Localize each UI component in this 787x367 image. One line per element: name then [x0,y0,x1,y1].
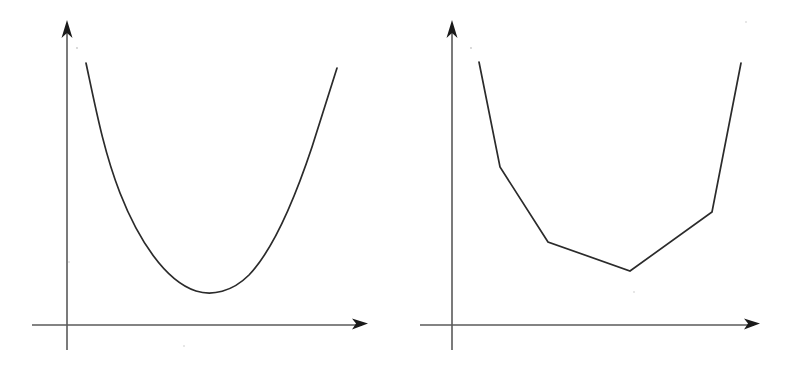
data-curve-piecewise [479,62,741,271]
scan-speck-icon [68,261,70,263]
figure-container [0,0,787,367]
data-curve-smooth [86,63,337,293]
scan-speck-icon [633,291,635,293]
scan-speck-icon [183,345,185,347]
scan-speck-icon [470,47,472,49]
x-axis-arrowhead-left [352,319,368,330]
smooth-convex-curve-plot [0,0,394,367]
chart-panel-right [394,0,787,367]
piecewise-linear-curve-plot [394,0,787,367]
x-axis-arrowhead-right [744,319,760,330]
scan-speck-icon [745,21,747,23]
chart-panel-left [0,0,394,367]
scan-speck-icon [76,47,78,49]
